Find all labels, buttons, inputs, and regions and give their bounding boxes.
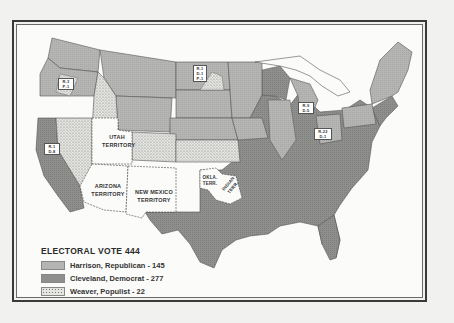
weaver-swatch	[41, 287, 65, 296]
arizona-territory-label: ARIZONA TERRITORY	[90, 182, 126, 198]
new-mexico-territory-label: NEW MEXICO TERRITORY	[132, 188, 176, 204]
harrison-swatch	[41, 261, 65, 270]
north-dakota-split-vote-box: R-1 D-1 P-1	[193, 65, 207, 82]
legend-item-cleveland: Cleveland, Democrat - 277	[41, 272, 181, 284]
oregon-split-vote-box: R-3 P-1	[58, 78, 74, 90]
arizona-label-line2: TERRITORY	[90, 190, 126, 198]
ohio-vote-d: D-1	[315, 134, 331, 139]
utah-label-line2: TERRITORY	[102, 141, 132, 149]
cleveland-swatch	[41, 274, 65, 283]
utah-territory-label: UTAH TERRITORY	[102, 133, 132, 149]
legend-label-cleveland: Cleveland, Democrat - 277	[70, 274, 163, 283]
legend: ELECTORAL VOTE 444 Harrison, Republican …	[41, 246, 181, 298]
oregon-vote-p: P-1	[59, 84, 73, 89]
new-mexico-label-line1: NEW MEXICO	[132, 188, 176, 196]
california-vote-d: D-8	[45, 149, 59, 154]
legend-item-weaver: Weaver, Populist - 22	[41, 285, 181, 297]
michigan-split-vote-box: R-9 D-5	[298, 102, 314, 114]
arizona-label-line1: ARIZONA	[90, 182, 126, 190]
legend-label-weaver: Weaver, Populist - 22	[70, 287, 145, 296]
michigan-vote-d: D-5	[299, 108, 313, 113]
nd-vote-p: P-1	[194, 76, 206, 81]
oklahoma-territory-label: OKLA. TERR.	[200, 175, 220, 187]
california-split-vote-box: R-1 D-8	[44, 143, 60, 155]
new-mexico-label-line2: TERRITORY	[132, 196, 176, 204]
legend-title: ELECTORAL VOTE 444	[41, 246, 181, 256]
ohio-split-vote-box: R-22 D-1	[314, 128, 332, 140]
legend-item-harrison: Harrison, Republican - 145	[41, 259, 181, 271]
oklahoma-label-line2: TERR.	[200, 181, 220, 187]
utah-label-line1: UTAH	[102, 133, 132, 141]
legend-label-harrison: Harrison, Republican - 145	[70, 261, 165, 270]
